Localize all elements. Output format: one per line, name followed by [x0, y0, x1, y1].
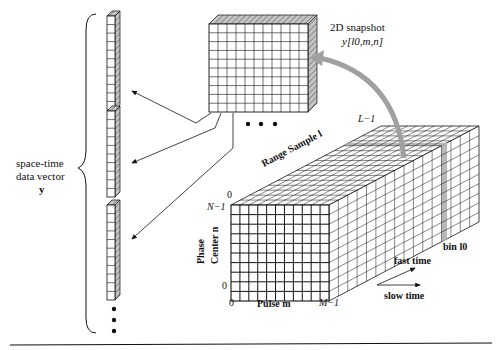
snapshot-formula: y[l0,m,n]	[342, 36, 383, 47]
column-to-vector-arrows	[132, 91, 233, 239]
space-time-label-symbol: y	[39, 184, 45, 195]
phase-top-label: N−1	[207, 202, 225, 212]
snapshot-ellipsis-dots	[246, 122, 277, 126]
bin-label: bin l0	[443, 242, 467, 252]
space-time-label-line2: data vector	[16, 171, 65, 182]
phase-bottom-label: 0	[222, 281, 227, 291]
range-end-label: L−1	[358, 114, 375, 124]
space-time-vector-segments	[107, 11, 120, 300]
space-time-label-line1: space-time	[16, 158, 64, 169]
curly-brace	[78, 14, 96, 333]
phase-axis-line1: Phase	[196, 239, 206, 264]
space-time-data-cube-diagram	[0, 0, 500, 350]
pulse-start-label: 0	[229, 298, 234, 308]
slow-time-label: slow time	[384, 291, 424, 301]
snapshot-title: 2D snapshot	[330, 22, 385, 33]
vector-continuation-dots	[112, 307, 116, 333]
radar-data-cube	[231, 126, 479, 301]
fast-time-label: fast time	[394, 256, 431, 266]
snapshot-2d-block	[209, 15, 317, 112]
phase-axis-line2: Center n	[210, 227, 220, 264]
pulse-axis-label: Pulse m	[257, 299, 291, 309]
phase-top-zero-label: 0	[227, 190, 232, 200]
bottom-rule	[10, 343, 492, 345]
pulse-end-label: M−1	[319, 298, 339, 308]
